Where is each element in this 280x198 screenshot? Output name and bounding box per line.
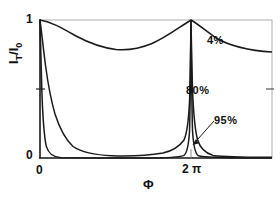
x-tick-label-2pi: 2 π [182,162,201,176]
y-tick-label-1: 1 [26,12,33,26]
curve-4-percent [40,20,272,52]
plot-frame [40,20,272,158]
curve-label-95-percent: 95% [214,114,238,126]
x-axis-label: Φ [143,177,154,192]
y-axis-label: IT/I0 [6,8,24,64]
x-tick-label-0: 0 [36,163,43,177]
y-tick-label-0: 0 [26,148,33,162]
curve-label-4-percent: 4% [207,34,224,46]
curve-label-80-percent: 80% [186,84,210,96]
curve-95-percent [40,20,272,158]
curve-80-percent [40,20,272,157]
